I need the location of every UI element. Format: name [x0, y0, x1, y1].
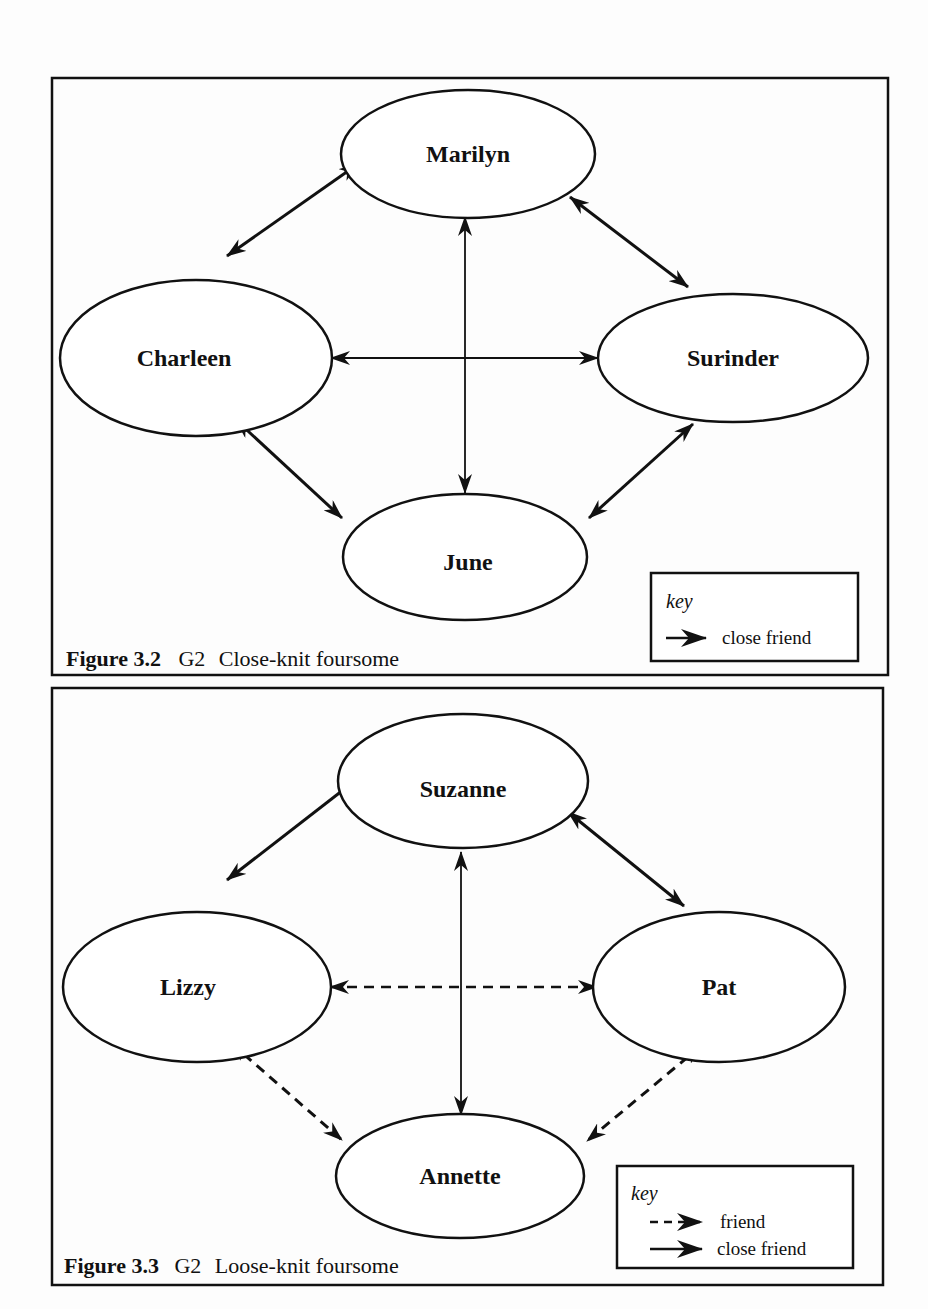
figure-3-3: Suzanne Lizzy Pat Annette key friend clo…: [52, 688, 883, 1285]
caption-number: Figure 3.2: [66, 646, 161, 671]
edge-marilyn-charleen: [227, 164, 358, 256]
node-suzanne: Suzanne: [338, 714, 588, 848]
node-annette: Annette: [336, 1114, 584, 1238]
node-pat: Pat: [593, 912, 845, 1062]
caption-number: Figure 3.3: [64, 1253, 159, 1278]
figure-caption: Figure 3.3 G2 Loose-knit foursome: [64, 1253, 399, 1278]
figure-3-2: Marilyn Charleen Surinder June key close…: [52, 78, 888, 675]
legend: key close friend: [651, 573, 858, 661]
caption-group: G2: [174, 1253, 201, 1278]
caption-group: G2: [178, 646, 205, 671]
edge-suzanne-lizzy: [227, 780, 356, 880]
legend-label-friend: friend: [720, 1211, 766, 1232]
edge-suzanne-pat: [568, 812, 684, 906]
figure-caption: Figure 3.2 G2 Close-knit foursome: [66, 646, 399, 671]
caption-title: Close-knit foursome: [219, 646, 399, 671]
node-label: Annette: [419, 1163, 501, 1189]
legend: key friend close friend: [617, 1166, 853, 1268]
caption-title: Loose-knit foursome: [215, 1253, 399, 1278]
edge-marilyn-surinder: [570, 197, 688, 287]
node-label: Charleen: [137, 345, 232, 371]
node-charleen: Charleen: [60, 280, 332, 436]
legend-title: key: [666, 590, 693, 613]
node-label: Surinder: [687, 345, 779, 371]
node-june: June: [343, 494, 587, 620]
legend-label-close-friend: close friend: [722, 627, 812, 648]
node-lizzy: Lizzy: [63, 912, 331, 1062]
edge-surinder-june: [589, 424, 693, 518]
edge-charleen-june: [236, 420, 342, 518]
node-label: June: [443, 549, 493, 575]
node-label: Marilyn: [426, 141, 510, 167]
node-marilyn: Marilyn: [341, 90, 595, 218]
node-label: Lizzy: [160, 974, 216, 1000]
node-label: Pat: [702, 974, 737, 1000]
node-surinder: Surinder: [598, 294, 868, 422]
legend-label-close-friend: close friend: [717, 1238, 807, 1259]
sociogram-figures: Marilyn Charleen Surinder June key close…: [0, 0, 928, 1309]
legend-title: key: [631, 1182, 658, 1205]
node-label: Suzanne: [420, 776, 507, 802]
